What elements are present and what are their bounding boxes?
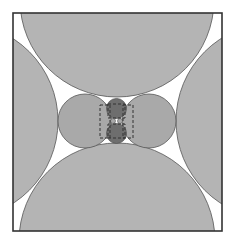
diagram-content <box>0 0 235 234</box>
tiny-circle-left <box>111 119 116 124</box>
medium-circle-left <box>58 94 112 148</box>
tiny-circle-right <box>118 119 123 124</box>
circle-packing-diagram <box>0 0 235 234</box>
medium-circle-right <box>122 94 176 148</box>
